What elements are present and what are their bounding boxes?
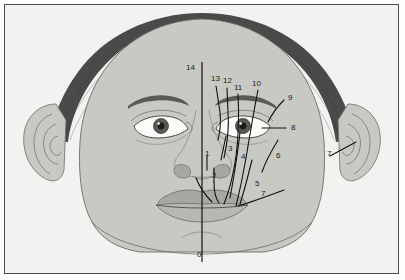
label-4: 4 [241,153,245,161]
label-2: 2 [212,172,216,180]
face-diagram-canvas [0,0,405,280]
label-13: 13 [211,75,220,83]
label-10: 10 [252,80,261,88]
label-0: 0 [197,251,201,259]
label-7: 7 [261,190,265,198]
left-ear [24,104,66,181]
label-6: 6 [276,152,280,160]
face-annotation-figure: 0 1 2 3 4 5 6 7 7 8 9 10 11 12 13 14 [0,0,405,280]
label-12: 12 [223,77,232,85]
label-11: 11 [234,84,242,92]
label-3: 3 [228,145,232,153]
right-ear [338,104,380,181]
label-9: 9 [288,94,292,102]
label-5: 5 [255,180,259,188]
label-7-ear: 7 [327,150,331,158]
label-8: 8 [291,124,295,132]
label-1: 1 [205,150,209,158]
label-14: 14 [186,64,195,72]
